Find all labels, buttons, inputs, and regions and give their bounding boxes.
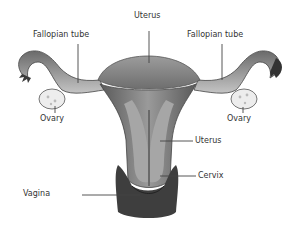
label-fallopian-tube-right: Fallopian tube	[187, 31, 243, 39]
right-fallopian-tube	[194, 51, 279, 93]
label-ovary-right: Ovary	[227, 115, 251, 123]
left-ovary	[39, 89, 65, 109]
right-ovary	[231, 89, 257, 109]
label-cervix: Cervix	[198, 172, 224, 180]
label-vagina: Vagina	[23, 190, 50, 198]
left-fimbriae	[19, 74, 31, 83]
left-fallopian-tube	[19, 51, 104, 93]
label-uterus-top: Uterus	[134, 12, 160, 20]
label-ovary-left: Ovary	[40, 115, 64, 123]
label-fallopian-tube-left: Fallopian tube	[33, 31, 89, 39]
reproductive-system-diagram: Uterus Fallopian tube Fallopian tube Ova…	[0, 0, 298, 229]
label-uterus-side: Uterus	[195, 137, 221, 145]
